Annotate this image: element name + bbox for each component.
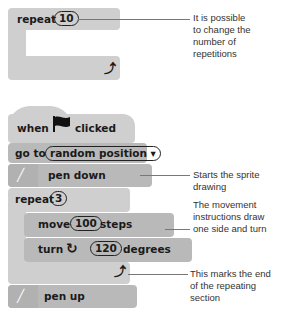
go-to-label: go to [15,148,46,159]
random-position-dropdown[interactable]: random position ▾ [45,146,161,161]
degrees-label: degrees [123,244,171,255]
steps-label: steps [100,219,132,230]
annotation-loop-end: This marks the end of the repeating sect… [190,268,271,304]
loop-arrow-icon: ⤴ [104,63,116,75]
leader-line [128,274,188,275]
repeat-label: repeat [15,194,54,205]
annotation-repetitions: It is possible to change the number of r… [193,12,251,60]
pen-icon: ╱ [17,169,24,181]
pen-up-label: pen up [44,291,85,302]
leader-line [140,175,190,176]
loop-arrow-icon: ⤴ [114,266,126,278]
turn-degrees-input[interactable]: 120 [90,241,122,256]
pen-icon: ╱ [17,290,24,302]
rotate-clockwise-icon: ↻ [66,241,78,255]
move-steps-input[interactable]: 100 [70,216,102,231]
repeat-count-input[interactable]: 10 [54,11,79,26]
annotation-movement: The movement instructions draw one side … [193,199,266,235]
repeat-label: repeat [17,14,56,25]
when-label: when [17,123,49,134]
repeat-c-arm [8,26,26,60]
green-flag-icon [52,115,72,137]
annotation-pen-down: Starts the sprite drawing [193,169,260,193]
leader-line [78,19,190,20]
pen-down-label: pen down [48,170,106,181]
move-label: move [38,219,70,230]
repeat-3-bottom-bar [8,262,130,284]
turn-label: turn [38,244,63,255]
clicked-label: clicked [75,123,116,134]
repeat-count-input[interactable]: 3 [50,191,67,206]
leader-line [165,229,190,230]
